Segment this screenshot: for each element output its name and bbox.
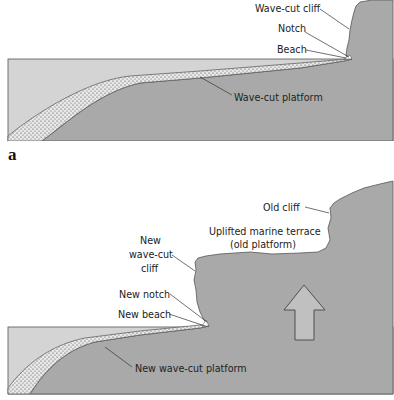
label-new-notch: New notch: [119, 289, 170, 300]
label-wave-cut-cliff: Wave-cut cliff: [255, 3, 321, 14]
label-notch: Notch: [278, 23, 306, 34]
label-old-cliff: Old cliff: [263, 202, 300, 213]
panel-a: Wave-cut cliff Notch Beach Wave-cut plat…: [8, 0, 394, 164]
coastal-uplift-diagram: Wave-cut cliff Notch Beach Wave-cut plat…: [0, 0, 394, 400]
label-new-wave-cut-platform: New wave-cut platform: [135, 363, 247, 374]
label-uplifted-terrace: Uplifted marine terrace: [209, 226, 321, 237]
panel-b: Old cliff Uplifted marine terrace (old p…: [8, 181, 393, 394]
label-wave-cut-platform: Wave-cut platform: [234, 92, 323, 103]
panel-letter-a: a: [8, 145, 17, 164]
label-old-platform: (old platform): [230, 239, 296, 250]
label-new-cliff-3: cliff: [141, 263, 159, 274]
label-new-cliff-2: wave-cut: [129, 249, 173, 260]
label-beach: Beach: [277, 44, 307, 55]
label-new-cliff-1: New: [140, 235, 161, 246]
label-new-beach: New beach: [118, 309, 171, 320]
